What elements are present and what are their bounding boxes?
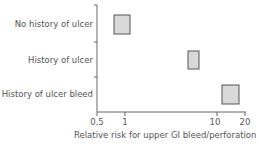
rr-box-history-bleed bbox=[222, 85, 239, 104]
x-tick-0-5: 0.5 bbox=[90, 117, 104, 127]
rr-box-no-history bbox=[114, 15, 130, 34]
row-label-no-history: No history of ulcer bbox=[15, 19, 93, 29]
x-tick-1: 1 bbox=[122, 117, 127, 127]
x-tick-10: 10 bbox=[210, 117, 221, 127]
row-label-history-ulcer: History of ulcer bbox=[28, 55, 93, 65]
x-tick-20: 20 bbox=[240, 117, 251, 127]
row-label-history-bleed: History of ulcer bleed bbox=[2, 89, 93, 99]
rr-box-history-ulcer bbox=[188, 51, 199, 69]
x-axis-title: Relative risk for upper GI bleed/perfora… bbox=[74, 130, 256, 140]
